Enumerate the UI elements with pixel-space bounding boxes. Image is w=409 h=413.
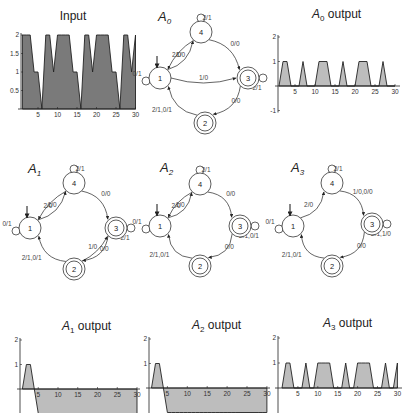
a0-output-x-tick: 10 <box>311 88 319 95</box>
transition-edge <box>301 235 324 259</box>
self-loop-edge <box>127 224 135 232</box>
state-label: 4 <box>198 180 202 189</box>
a2-output-x-tick: 20 <box>223 390 231 397</box>
edge-label: 0/0 <box>226 190 235 197</box>
edge-label: 0/0 <box>231 97 240 104</box>
edge-label: 2/1,0/1 <box>152 106 172 113</box>
input-x-tick: 15 <box>73 111 81 118</box>
state-label: 1 <box>28 224 32 233</box>
edge-label: 0/1 <box>132 70 141 77</box>
a3-state-diagram: 2/10/12/01/0,0/02/1,1/00/02/1,0/14132 <box>265 165 391 277</box>
a1-state-diagram: 2/10/12/01/00/02/11/00/02/1,0/14132 <box>2 165 135 280</box>
self-loop-edge <box>383 220 391 228</box>
a1-output-y-tick: 1 <box>14 361 18 368</box>
input-area <box>22 35 135 109</box>
input-x-tick: 20 <box>93 111 101 118</box>
a0-output-x-tick: 25 <box>371 88 379 95</box>
a0-output-x-tick: 30 <box>391 88 399 95</box>
a2-output-x-tick: 30 <box>263 390 271 397</box>
input-y-tick: 0.5 <box>10 87 19 94</box>
a3-output-x-tick: 10 <box>314 390 322 397</box>
edge-label: 0/1 <box>265 218 274 225</box>
state-label: 2 <box>72 265 76 274</box>
a1-output-x-tick: 5 <box>36 391 40 398</box>
a1-output-chart: 5101520253012 <box>14 336 141 413</box>
a0-output-y-tick: -1 <box>270 107 276 114</box>
a2-output-title: A2 output <box>191 318 242 334</box>
state-label: 3 <box>246 74 250 83</box>
panel-a1-output: A1 output 5101520253012 <box>14 319 141 413</box>
a2-output-x-tick: 25 <box>243 390 251 397</box>
a1-output-x-tick: 10 <box>54 391 62 398</box>
edge-label: 2/1 <box>75 165 84 172</box>
input-chart: 510152025300.511.52 <box>10 31 140 118</box>
self-loop-edge <box>259 74 267 82</box>
edge-label: 2/1,0/1 <box>282 251 302 258</box>
state-label: 4 <box>199 28 203 37</box>
a0-output-x-tick: 15 <box>331 88 339 95</box>
a0-output-x-tick: 5 <box>293 88 297 95</box>
input-x-tick: 10 <box>54 111 62 118</box>
state-label: 2 <box>203 119 207 128</box>
state-label: 2 <box>330 262 334 271</box>
transition-edge <box>39 236 66 261</box>
a0-graph-label: A0 <box>157 9 172 26</box>
edge-label: 1/0 <box>48 201 57 208</box>
input-y-tick: 1 <box>15 68 19 75</box>
a3-output-x-tick: 15 <box>334 390 342 397</box>
state-label: 3 <box>238 222 242 231</box>
state-label: 2 <box>198 262 202 271</box>
edge-label: 1/0 <box>176 201 185 208</box>
a2-state-diagram: 2/10/12/01/00/02/1,0/10/02/1,0/14132 <box>132 166 259 277</box>
a3-graph-label: A3 <box>290 160 305 177</box>
a3-output-x-tick: 5 <box>296 390 300 397</box>
state-label: 4 <box>330 179 334 188</box>
a0-output-area <box>279 62 395 87</box>
input-x-tick: 25 <box>112 111 120 118</box>
edge-label: 0/0 <box>357 242 366 249</box>
edge-label: 0/0 <box>225 243 234 250</box>
a1-output-title: A1 output <box>61 319 112 335</box>
a1-output-y-tick: 2 <box>14 336 18 343</box>
a2-output-x-tick: 15 <box>204 390 212 397</box>
a0-output-y-tick: 2 <box>272 33 276 40</box>
a1-output-x-tick: 25 <box>114 391 122 398</box>
a0-output-x-tick: 20 <box>351 88 359 95</box>
edge-label: 2/1 <box>202 14 211 21</box>
a2-output-y-tick: 1 <box>143 360 147 367</box>
a0-output-y-tick: 1 <box>272 58 276 65</box>
input-x-tick: 5 <box>36 111 40 118</box>
a2-graph-label: A2 <box>159 160 174 177</box>
state-label: 1 <box>158 222 162 231</box>
state-label: 1 <box>158 74 162 83</box>
self-loop-edge <box>251 222 259 230</box>
edge-label: 2/1 <box>333 165 342 172</box>
a3-output-y-tick: 1 <box>272 359 276 366</box>
edge-label: 2/0 <box>304 201 313 208</box>
edge-label: 2/1,0/1 <box>22 254 42 261</box>
edge-label: 0/1 <box>2 220 11 227</box>
a0-state-diagram: 2/10/12/01/00/01/02/10/02/1,0/14132 <box>132 14 267 134</box>
edge-label: 0/0 <box>230 40 239 47</box>
a0-output-chart: 51015202530-112 <box>270 33 400 114</box>
state-label: 3 <box>370 220 374 229</box>
edge-label: 0/0 <box>100 245 109 252</box>
input-x-tick: 30 <box>132 111 140 118</box>
a3-output-area <box>282 363 397 388</box>
edge-label: 0/1 <box>132 218 141 225</box>
a1-graph-label: A1 <box>27 161 41 178</box>
edge-label: 1/0,0/0 <box>353 188 373 195</box>
state-label: 1 <box>291 222 295 231</box>
panel-input: Input 510152025300.511.52 <box>10 9 140 118</box>
a2-output-y-tick: 2 <box>143 335 147 342</box>
a3-output-x-tick: 30 <box>394 390 402 397</box>
a0-output-title: A0 output <box>311 7 362 23</box>
a3-output-x-tick: 25 <box>374 390 382 397</box>
transition-edge <box>169 87 198 116</box>
input-y-tick: 2 <box>15 31 19 38</box>
a3-output-x-tick: 20 <box>354 390 362 397</box>
a2-output-chart: 5101520253012 <box>143 335 271 413</box>
input-y-tick: 1.5 <box>10 50 19 57</box>
edge-label: 1/0 <box>199 74 208 81</box>
input-title: Input <box>60 9 87 23</box>
